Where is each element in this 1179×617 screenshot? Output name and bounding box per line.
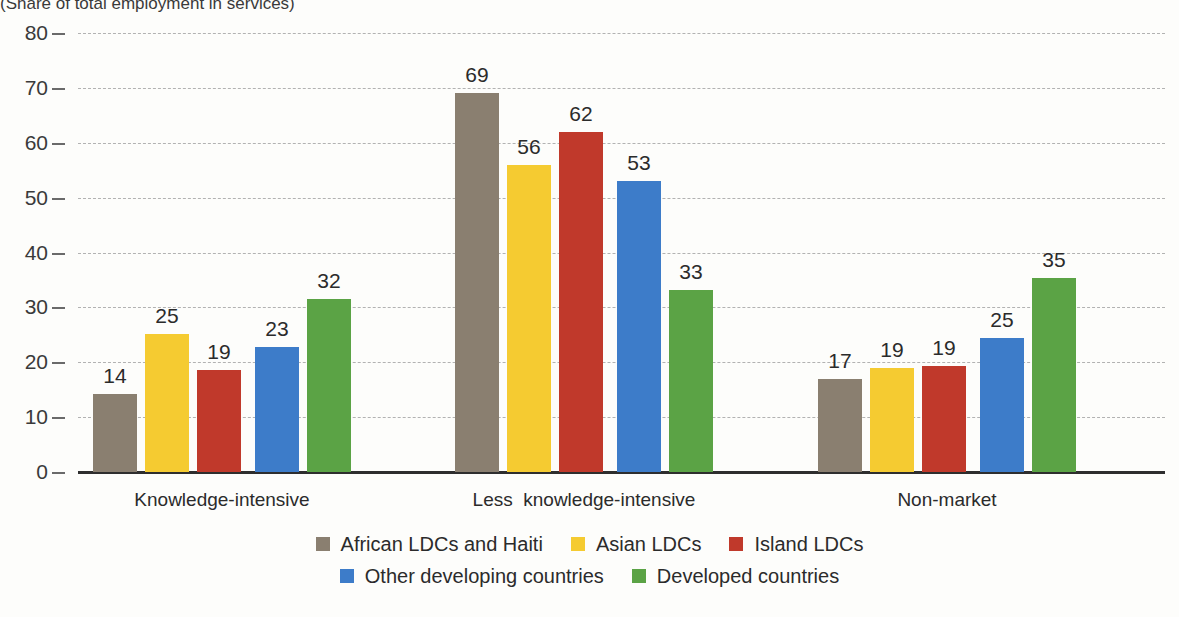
bar-value-label: 23 [265,317,288,341]
y-axis-tick-mark [52,417,65,419]
y-axis-tick-mark [52,33,65,35]
bar[interactable] [307,299,351,472]
bar[interactable] [870,368,914,472]
bar[interactable] [559,132,603,472]
bar-value-label: 33 [679,260,702,284]
y-axis-tick-mark [52,198,65,200]
x-axis-category-label: Less knowledge-intensive [473,489,696,511]
bar[interactable] [922,366,966,472]
bar-value-label: 62 [569,102,592,126]
bar-value-label: 69 [465,63,488,87]
bar-value-label: 17 [828,349,851,373]
y-axis-tick-label: 40 [0,241,48,265]
legend-item[interactable]: Asian LDCs [571,533,702,556]
bar[interactable] [507,165,551,472]
y-axis-tick-mark [52,253,65,255]
y-axis-tick-label: 0 [0,460,48,484]
bar-chart-plot-area: 010203040506070801425192332Knowledge-int… [0,0,1179,617]
legend-item[interactable]: Other developing countries [340,565,604,588]
legend-row-2: Other developing countriesDeveloped coun… [0,560,1179,592]
bar[interactable] [617,181,661,472]
legend-swatch-icon [729,537,743,551]
y-axis-tick-mark [52,362,65,364]
x-axis-category-label: Knowledge-intensive [134,489,309,511]
legend-label: Developed countries [657,565,839,588]
legend-item[interactable]: Island LDCs [729,533,863,556]
y-axis-tick-mark [52,472,65,474]
legend-item[interactable]: African LDCs and Haiti [316,533,543,556]
bar-value-label: 25 [990,308,1013,332]
y-axis-tick-label: 50 [0,186,48,210]
bar-value-label: 19 [932,336,955,360]
y-axis-tick-mark [52,307,65,309]
y-axis-tick-label: 20 [0,350,48,374]
gridline [78,143,1165,144]
bar[interactable] [980,338,1024,472]
x-axis-category-label: Non-market [897,489,996,511]
bar[interactable] [455,93,499,472]
gridline [78,33,1165,34]
y-axis-tick-label: 80 [0,21,48,45]
chart-legend: African LDCs and HaitiAsian LDCsIsland L… [0,528,1179,592]
bar-value-label: 14 [103,364,126,388]
bar[interactable] [818,379,862,472]
bar[interactable] [197,370,241,472]
legend-item[interactable]: Developed countries [632,565,839,588]
bar-value-label: 32 [317,269,340,293]
bar-value-label: 19 [207,340,230,364]
y-axis-tick-label: 60 [0,131,48,155]
bar-value-label: 19 [880,338,903,362]
legend-swatch-icon [571,537,585,551]
bar[interactable] [93,394,137,472]
legend-row-1: African LDCs and HaitiAsian LDCsIsland L… [0,528,1179,560]
y-axis-tick-label: 30 [0,295,48,319]
gridline [78,88,1165,89]
bar-value-label: 25 [155,304,178,328]
bar[interactable] [145,334,189,472]
bar-value-label: 35 [1042,248,1065,272]
bar-value-label: 56 [517,135,540,159]
bar[interactable] [1032,278,1076,472]
y-axis-tick-mark [52,143,65,145]
bar[interactable] [669,290,713,472]
bar-value-label: 53 [627,151,650,175]
legend-label: Other developing countries [365,565,604,588]
y-axis-tick-mark [52,88,65,90]
legend-label: African LDCs and Haiti [341,533,543,556]
y-axis-tick-label: 10 [0,405,48,429]
y-axis-tick-label: 70 [0,76,48,100]
legend-label: Island LDCs [754,533,863,556]
legend-label: Asian LDCs [596,533,702,556]
bar[interactable] [255,347,299,472]
legend-swatch-icon [340,569,354,583]
legend-swatch-icon [316,537,330,551]
legend-swatch-icon [632,569,646,583]
